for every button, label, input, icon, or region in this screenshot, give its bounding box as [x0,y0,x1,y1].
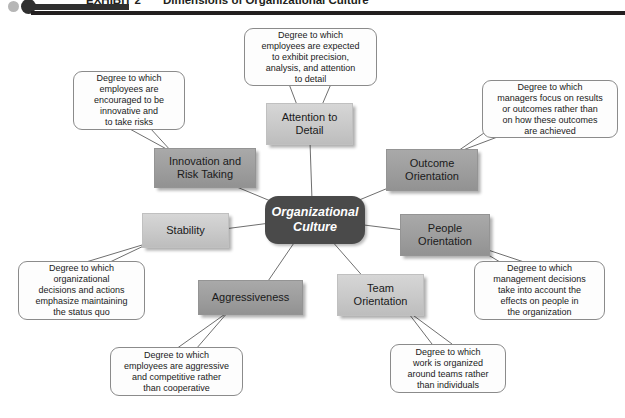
callout-attention-to-detail: Degree to whichemployees are expectedto … [244,28,377,86]
leader-aggressiveness [196,312,228,349]
dimension-box-people-orientation[interactable]: PeopleOrientation [400,214,490,256]
callout-outcome-orientation: Degree to whichmanagers focus on results… [482,80,618,138]
leader-attention-to-detail [289,84,297,105]
spoke-attention-to-detail [310,142,312,200]
leader-aggressiveness-2 [176,312,228,349]
leader-attention-to-detail-2 [322,84,331,105]
exhibit-page: EXHIBIT 2 Dimensions of Organizational C… [0,0,625,418]
dimension-box-outcome-orientation[interactable]: OutcomeOrientation [386,149,478,191]
dimension-box-attention-to-detail[interactable]: Attention toDetail [266,103,353,145]
dimension-box-team-orientation[interactable]: TeamOrientation [337,274,424,316]
dimension-box-stability[interactable]: Stability [142,213,229,248]
dimension-box-innovation-and-risk-taking[interactable]: Innovation andRisk Taking [154,148,256,188]
callout-stability: Degree to whichorganizationaldecisions a… [18,261,145,320]
dimension-box-aggressiveness[interactable]: Aggressiveness [198,280,303,315]
center-node-organizational-culture: OrganizationalCulture [265,196,365,244]
callout-aggressiveness: Degree to whichemployees are aggressivea… [110,347,243,396]
callout-team-orientation: Degree to whichwork is organizedaround t… [390,344,506,393]
spoke-aggressiveness [266,240,296,284]
callout-people-orientation: Degree to whichmanagement decisionstake … [474,261,605,320]
callout-innovation-and-risk-taking: Degree to whichemployees areencouraged t… [73,71,185,130]
